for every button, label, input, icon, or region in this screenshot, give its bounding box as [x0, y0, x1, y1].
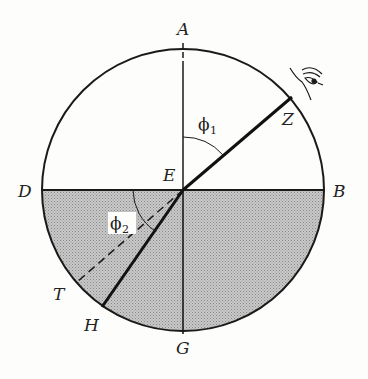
- label-G: G: [176, 338, 190, 358]
- label-B: B: [332, 181, 346, 201]
- label-E: E: [162, 165, 176, 185]
- eye-icon: [290, 68, 323, 100]
- label-T: T: [53, 284, 66, 304]
- svg-text:1: 1: [210, 124, 217, 137]
- label-H: H: [83, 315, 100, 335]
- ray-ZE: [183, 97, 292, 190]
- svg-text:2: 2: [122, 223, 129, 236]
- refraction-diagram: A Z E D B T H G ϕ 1 ϕ 2: [0, 0, 368, 379]
- svg-text:ϕ: ϕ: [198, 114, 210, 134]
- angle-arc-phi1: [183, 137, 223, 155]
- label-D: D: [17, 181, 32, 201]
- label-A: A: [175, 19, 189, 39]
- svg-text:ϕ: ϕ: [110, 213, 122, 233]
- label-phi1: ϕ 1: [198, 114, 217, 137]
- label-Z: Z: [281, 109, 295, 129]
